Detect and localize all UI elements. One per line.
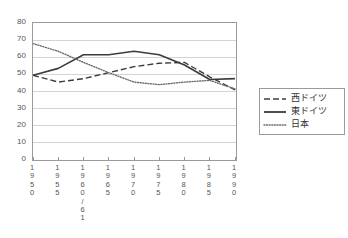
y-tick-label: 40 xyxy=(17,87,26,95)
legend-label: 西ドイツ xyxy=(291,93,327,104)
gridlines xyxy=(33,40,236,143)
legend-swatch-dashed-icon xyxy=(263,94,287,104)
y-tick-label: 20 xyxy=(17,121,26,129)
series-line xyxy=(33,51,235,79)
x-tick-label: 1 9 8 0 xyxy=(178,164,190,198)
legend-item[interactable]: 東ドイツ xyxy=(263,105,342,118)
x-tick-label: 1 9 6 5 xyxy=(102,164,114,198)
x-tick-label: 1 9 6 0 / 6 1 xyxy=(77,164,89,223)
x-tick-label: 1 9 9 0 xyxy=(228,164,240,198)
legend-item[interactable]: 日本 xyxy=(263,118,342,131)
line-chart: 01020304050607080 1 9 5 01 9 5 51 9 6 0 … xyxy=(0,0,348,238)
x-tick-label: 1 9 7 0 xyxy=(127,164,139,198)
legend-swatch-dotted-icon xyxy=(263,120,287,130)
x-tick-label: 1 9 7 5 xyxy=(152,164,164,198)
y-tick-label: 50 xyxy=(17,69,26,77)
y-tick-label: 80 xyxy=(17,18,26,26)
legend-item[interactable]: 西ドイツ xyxy=(263,92,342,105)
y-tick-label: 70 xyxy=(17,35,26,43)
plot-area xyxy=(32,22,237,161)
y-tick-label: 60 xyxy=(17,52,26,60)
series-lines xyxy=(33,44,235,90)
y-tick-label: 0 xyxy=(22,155,26,163)
chart-legend: 西ドイツ東ドイツ日本 xyxy=(259,88,345,135)
x-tick-label: 1 9 5 0 xyxy=(26,164,38,198)
x-tick-label: 1 9 5 5 xyxy=(51,164,63,198)
legend-swatch-solid-icon xyxy=(263,107,287,117)
x-axis: 1 9 5 01 9 5 51 9 6 0 / 6 11 9 6 51 9 7 … xyxy=(32,164,237,238)
legend-label: 東ドイツ xyxy=(291,106,327,117)
x-axis-ticks xyxy=(33,157,235,160)
y-axis: 01020304050607080 xyxy=(0,0,30,238)
x-tick-label: 1 9 8 5 xyxy=(203,164,215,198)
legend-label: 日本 xyxy=(291,119,309,130)
y-tick-label: 10 xyxy=(17,138,26,146)
plot-svg xyxy=(33,23,236,160)
y-tick-label: 30 xyxy=(17,104,26,112)
